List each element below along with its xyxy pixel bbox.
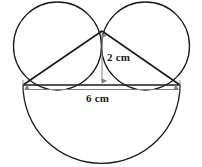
upper-left-circle xyxy=(14,2,102,90)
upper-right-circle xyxy=(102,2,190,90)
geometry-canvas xyxy=(0,0,202,167)
height-dimension-label: 2 cm xyxy=(107,51,130,63)
geometry-figure: 2 cm 6 cm xyxy=(0,0,202,167)
base-dimension-label: 6 cm xyxy=(86,92,109,104)
triangle-left-side xyxy=(23,31,102,85)
